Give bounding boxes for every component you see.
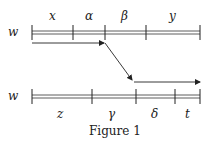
bottom-string-row: w z γ δ t xyxy=(8,89,200,121)
segment-label-t: t xyxy=(185,107,190,121)
figure-caption: Figure 1 xyxy=(89,124,141,138)
top-row-variable-label: w xyxy=(8,25,19,39)
segment-label-z: z xyxy=(56,107,64,121)
segment-label-y: y xyxy=(168,9,176,23)
segment-label-x: x xyxy=(49,9,56,23)
segment-label-gamma: γ xyxy=(108,107,116,121)
arrow-diagonal-segment xyxy=(105,43,132,80)
segment-label-delta: δ xyxy=(151,107,158,121)
top-string-row: w x α β y xyxy=(8,9,200,40)
segment-label-alpha: α xyxy=(85,9,93,23)
mapping-arrow xyxy=(32,43,200,82)
figure-diagram: w x α β y w z γ δ t Figure 1 xyxy=(0,0,212,143)
bottom-row-variable-label: w xyxy=(8,89,19,103)
segment-label-beta: β xyxy=(120,9,128,23)
